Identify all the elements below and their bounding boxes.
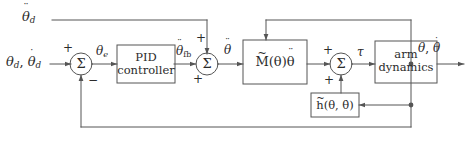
label-reference-input: θd, ˙θd xyxy=(6,55,41,70)
label-commanded-accel: ¨θ xyxy=(224,44,231,56)
diagram-wiring xyxy=(0,0,470,149)
block-label-nonlinear-model: ~h(θ, θ̇) xyxy=(311,99,359,112)
sigma-accel-summer: Σ xyxy=(199,57,215,70)
sign-error-summer-plus: + xyxy=(63,42,73,54)
block-label-pid-controller: PID controller xyxy=(117,51,175,77)
block-label-arm-dynamics: arm dynamics xyxy=(375,48,437,74)
sigma-torque-summer: Σ xyxy=(333,57,349,70)
label-pid-output: ¨θfb xyxy=(176,45,191,59)
sigma-error-summer: Σ xyxy=(73,57,89,70)
sign-torque-summer-plus-bottom: + xyxy=(324,74,334,86)
block-label-inertia-model: ~M(θ)¨θ xyxy=(243,55,307,70)
sign-torque-summer-plus-top: + xyxy=(323,44,333,56)
sign-error-summer-minus: − xyxy=(88,74,98,86)
junction-dot-h-feedback xyxy=(409,103,414,108)
sign-accel-summer-plus-top: + xyxy=(196,32,206,44)
label-error-signal: θe xyxy=(96,45,108,58)
label-torque: τ xyxy=(357,46,364,58)
label-feedforward-accel: ¨θd xyxy=(22,10,35,25)
control-block-diagram: ¨θd θd, ˙θd θe ¨θfb ¨θ τ θ, ˙θ PID contr… xyxy=(0,0,470,149)
sign-accel-summer-plus-bottom: + xyxy=(193,73,203,85)
